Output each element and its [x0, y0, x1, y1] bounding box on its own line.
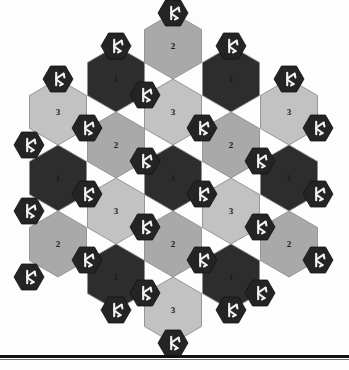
hex-tile-number: 3: [171, 305, 176, 315]
hex-tile-number: 2: [56, 239, 61, 249]
hex-tile-number: 1: [171, 173, 176, 183]
hex-tile-number: 2: [171, 41, 176, 51]
hex-tile-number: 3: [114, 206, 119, 216]
hex-tile-number: 1: [114, 272, 119, 282]
hex-tile-number: 2: [114, 140, 119, 150]
bottom-divider-rule: [0, 355, 349, 358]
hex-tile-number: 1: [229, 74, 234, 84]
hex-tile-number: 3: [287, 107, 292, 117]
hex-tile-number: 3: [171, 107, 176, 117]
trident-token[interactable]: [14, 132, 44, 158]
trident-token[interactable]: [14, 264, 44, 290]
trident-token-shape: [14, 264, 44, 290]
hex-board-svg: 2113332211133222113: [0, 0, 349, 356]
hex-tile-number: 1: [114, 74, 119, 84]
trident-token-shape: [14, 198, 44, 224]
hex-tile-number: 3: [56, 107, 61, 117]
hex-tile-number: 2: [171, 239, 176, 249]
trident-token-shape: [14, 132, 44, 158]
hex-tile-number: 1: [287, 173, 292, 183]
trident-token[interactable]: [14, 198, 44, 224]
hex-tile-number: 1: [56, 173, 61, 183]
hex-tile-number: 1: [229, 272, 234, 282]
hex-tile-number: 2: [229, 140, 234, 150]
hex-tile-number: 2: [287, 239, 292, 249]
bottom-divider-shadow: [0, 359, 349, 360]
hex-tile-number: 3: [229, 206, 234, 216]
hex-board: 2113332211133222113: [0, 0, 349, 356]
